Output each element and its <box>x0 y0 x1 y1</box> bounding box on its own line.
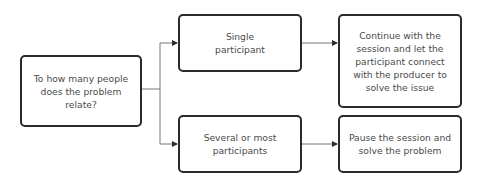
node-single-participant: Single participant <box>178 14 302 72</box>
node-several-label: Several or most participants <box>186 131 294 157</box>
node-single-label: Single participant <box>186 30 294 56</box>
node-continue-label: Continue with the session and let the pa… <box>346 29 454 94</box>
node-continue-session: Continue with the session and let the pa… <box>338 14 462 108</box>
node-pause-session: Pause the session and solve the problem <box>338 115 462 173</box>
node-pause-label: Pause the session and solve the problem <box>346 131 454 157</box>
node-question-label: To how many people does the problem rela… <box>28 72 134 111</box>
node-several-participants: Several or most participants <box>178 115 302 173</box>
node-question: To how many people does the problem rela… <box>20 55 142 127</box>
